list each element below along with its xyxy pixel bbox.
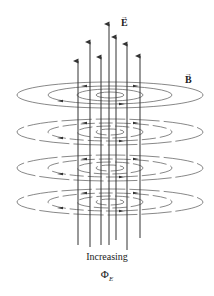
b-direction-arrow [119, 103, 125, 106]
b-field-loop [77, 89, 143, 101]
electric-flux-symbol: ΦE [0, 268, 214, 283]
b-field-loop [77, 196, 143, 208]
b-field-loop [96, 129, 124, 135]
b-field-loop [96, 165, 124, 171]
b-field-loop [77, 162, 143, 174]
caption-increasing: Increasing [0, 251, 214, 262]
magnetic-field-loops [17, 82, 203, 215]
b-direction-arrow [119, 176, 125, 179]
e-field-label: → E [121, 18, 128, 28]
b-field-label: → B [185, 75, 192, 85]
b-direction-arrow [119, 210, 125, 213]
electric-field-lines [78, 24, 140, 250]
b-field-loop [77, 126, 143, 138]
b-field-loop [96, 92, 124, 98]
b-field-loop [96, 199, 124, 205]
b-direction-arrow [119, 140, 125, 143]
